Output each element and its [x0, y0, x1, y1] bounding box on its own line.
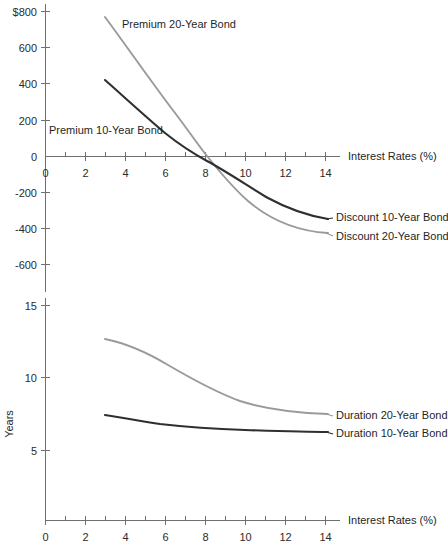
x-tick-label: 12: [279, 167, 291, 179]
bottom-chart-x-axis-title: Interest Rates (%): [348, 514, 437, 526]
label-premium-20-year-bond: Premium 20-Year Bond: [122, 18, 236, 30]
y-tick-label: $800: [13, 6, 37, 18]
x-tick-label: 0: [42, 167, 48, 179]
x-tick-label: 0: [42, 531, 48, 543]
bottom-chart-x-tick-labels: 0 2 4 6 8 10 12 14: [42, 531, 331, 543]
label-premium-10-year-bond: Premium 10-Year Bond: [49, 124, 163, 136]
figure-svg: $800 600 400 200 0 -200 -400 -600: [0, 0, 448, 549]
y-tick-label: -400: [15, 223, 37, 235]
y-tick-label: 200: [19, 115, 37, 127]
bottom-chart-y-tick-labels: 15 10 5: [25, 300, 37, 457]
price-change-chart: $800 600 400 200 0 -200 -400 -600: [13, 4, 448, 292]
curve-duration-20-year: [105, 339, 328, 414]
label-duration-10-year-bond: Duration 10-Year Bond: [336, 427, 448, 439]
x-tick-label: 14: [319, 531, 331, 543]
leader-discount-20-year: [326, 233, 333, 236]
y-tick-label: 600: [19, 42, 37, 54]
x-tick-label: 10: [239, 531, 251, 543]
duration-chart: 15 10 5 Years: [3, 298, 448, 543]
bond-price-duration-figure: $800 600 400 200 0 -200 -400 -600: [0, 0, 448, 549]
y-tick-label: 0: [31, 151, 37, 163]
curve-duration-10-year: [105, 415, 328, 432]
top-chart-y-tick-labels: $800 600 400 200 0 -200 -400 -600: [13, 6, 37, 271]
x-tick-label: 4: [122, 531, 128, 543]
y-tick-label: 400: [19, 78, 37, 90]
x-tick-label: 8: [202, 167, 208, 179]
y-tick-label: 15: [25, 300, 37, 312]
x-tick-label: 12: [279, 531, 291, 543]
y-tick-label: -600: [15, 259, 37, 271]
y-tick-label: 10: [25, 372, 37, 384]
y-tick-label: 5: [31, 445, 37, 457]
x-tick-label: 6: [162, 531, 168, 543]
curve-premium-discount-10-year: [105, 80, 328, 219]
x-tick-label: 2: [82, 167, 88, 179]
leader-duration-20-year: [326, 414, 333, 416]
x-tick-label: 4: [122, 167, 128, 179]
bottom-chart-y-axis-title: Years: [3, 410, 15, 438]
y-tick-label: -200: [15, 187, 37, 199]
label-duration-20-year-bond: Duration 20-Year Bond: [336, 409, 448, 421]
x-tick-label: 6: [162, 167, 168, 179]
x-tick-label: 10: [239, 167, 251, 179]
x-tick-label: 2: [82, 531, 88, 543]
x-tick-label: 8: [202, 531, 208, 543]
label-discount-10-year-bond: Discount 10-Year Bond: [336, 211, 448, 223]
label-discount-20-year-bond: Discount 20-Year Bond: [336, 230, 448, 242]
top-chart-x-axis-title: Interest Rates (%): [348, 150, 437, 162]
top-chart-x-tick-labels: 0 2 4 6 8 10 12 14: [42, 167, 331, 179]
x-tick-label: 14: [319, 167, 331, 179]
